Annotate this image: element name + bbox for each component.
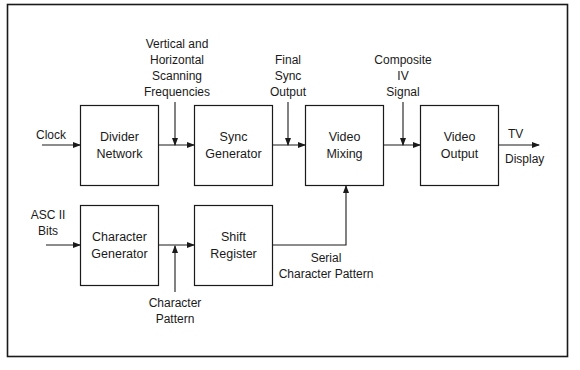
label-line: Pattern — [140, 311, 210, 327]
video-output-label: Video Output — [420, 105, 499, 186]
display-label: Display — [505, 151, 544, 167]
sync-generator-label: Sync Generator — [194, 105, 273, 186]
label-line: Horizontal — [132, 52, 222, 68]
label-line: Output — [263, 84, 313, 100]
block-line: Mixing — [326, 146, 362, 163]
character-pattern-label: Character Pattern — [140, 295, 210, 327]
block-line: Video — [329, 129, 361, 146]
serial-character-pattern-label: Serial Character Pattern — [276, 250, 376, 282]
character-generator-label: Character Generator — [80, 205, 159, 286]
label-line: Serial — [276, 250, 376, 266]
label-line: Character Pattern — [276, 266, 376, 282]
block-line: Network — [97, 146, 143, 163]
block-line: Sync — [220, 129, 248, 146]
scanning-frequencies-label: Vertical and Horizontal Scanning Frequen… — [132, 36, 222, 100]
shift-register-label: Shift Register — [194, 205, 273, 286]
label-line: ASC II — [28, 207, 68, 223]
label-line: Bits — [28, 223, 68, 239]
block-line: Generator — [205, 146, 261, 163]
tv-label: TV — [508, 126, 523, 142]
block-line: Output — [441, 146, 479, 163]
block-line: Generator — [91, 246, 147, 263]
block-line: Video — [444, 129, 476, 146]
label-line: Character — [140, 295, 210, 311]
shift-to-mixing-arrow — [272, 186, 346, 245]
composite-signal-label: Composite IV Signal — [368, 52, 438, 100]
label-line: Composite — [368, 52, 438, 68]
label-line: Final — [263, 52, 313, 68]
ascii-bits-label: ASC II Bits — [28, 207, 68, 239]
clock-label: Clock — [36, 127, 66, 143]
final-sync-output-label: Final Sync Output — [263, 52, 313, 100]
block-line: Character — [92, 229, 147, 246]
label-line: Scanning — [132, 68, 222, 84]
video-mixing-label: Video Mixing — [305, 105, 384, 186]
block-line: Shift — [221, 229, 246, 246]
block-line: Divider — [100, 129, 139, 146]
label-line: Signal — [368, 84, 438, 100]
block-line: Register — [210, 246, 257, 263]
divider-network-label: Divider Network — [80, 105, 159, 186]
label-line: IV — [368, 68, 438, 84]
label-line: Sync — [263, 68, 313, 84]
label-line: Vertical and — [132, 36, 222, 52]
label-line: Frequencies — [132, 84, 222, 100]
